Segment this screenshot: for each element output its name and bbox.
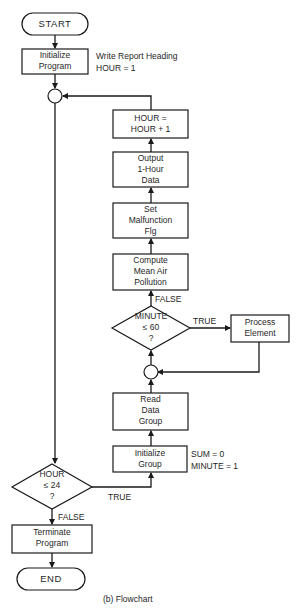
edge-process-element-connector	[158, 342, 259, 372]
compute-mean-line-2: Mean Air	[113, 266, 188, 277]
init-group-label: Initialize Group	[113, 448, 187, 470]
terminate-line-2: Program	[12, 538, 92, 549]
edge-hour-increment-connector	[63, 96, 151, 110]
init-group-note: SUM = 0 MINUTE = 1	[191, 448, 238, 472]
minute-decision-label: MINUTE ≤ 60 ?	[116, 311, 186, 344]
hour-decision-line-3: ?	[17, 491, 87, 502]
terminate-label: Terminate Program	[12, 527, 92, 549]
output-data-line-3: Data	[113, 175, 188, 186]
read-data-line-1: Read	[113, 394, 188, 405]
init-program-label: Initialize Program	[22, 50, 88, 72]
output-data-label: Output 1-Hour Data	[113, 153, 188, 186]
set-malfunction-line-1: Set	[113, 204, 188, 215]
compute-mean-label: Compute Mean Air Pollution	[113, 255, 188, 288]
hour-increment-label: HOUR = HOUR + 1	[113, 113, 188, 135]
flowchart-canvas	[0, 0, 302, 614]
set-malfunction-line-3: Flg	[113, 226, 188, 237]
compute-mean-line-3: Pollution	[113, 277, 188, 288]
hour-decision-line-2: ≤ 24	[17, 480, 87, 491]
process-element-line-1: Process	[231, 317, 289, 328]
figure-caption: (b) Flowchart	[103, 593, 153, 605]
init-group-note-line-2: MINUTE = 1	[191, 460, 238, 472]
hour-decision-label: HOUR ≤ 24 ?	[17, 469, 87, 502]
read-data-line-2: Data	[113, 405, 188, 416]
set-malfunction-line-2: Malfunction	[113, 215, 188, 226]
process-element-line-2: Element	[231, 328, 289, 339]
start-label: START	[22, 18, 88, 29]
edge-hour-true	[92, 473, 151, 487]
init-group-note-line-1: SUM = 0	[191, 448, 238, 460]
output-data-line-2: 1-Hour	[113, 164, 188, 175]
minute-decision-line-2: ≤ 60	[116, 322, 186, 333]
hour-increment-line-1: HOUR =	[113, 113, 188, 124]
terminate-line-1: Terminate	[12, 527, 92, 538]
connector-inner	[144, 365, 158, 379]
hour-decision-line-1: HOUR	[17, 469, 87, 480]
hour-increment-line-2: HOUR + 1	[113, 124, 188, 135]
hour-false-label: FALSE	[58, 511, 84, 523]
init-program-line-1: Initialize	[22, 50, 88, 61]
init-program-note-line-1: Write Report Heading	[96, 50, 178, 62]
init-program-line-2: Program	[22, 61, 88, 72]
minute-decision-line-3: ?	[116, 333, 186, 344]
minute-decision-line-1: MINUTE	[116, 311, 186, 322]
read-data-label: Read Data Group	[113, 394, 188, 427]
init-program-note: Write Report Heading HOUR = 1	[96, 50, 178, 74]
process-element-label: Process Element	[231, 317, 289, 339]
connector-outer	[48, 89, 62, 103]
init-program-note-line-2: HOUR = 1	[96, 62, 178, 74]
init-group-line-2: Group	[113, 459, 187, 470]
output-data-line-1: Output	[113, 153, 188, 164]
minute-false-label: FALSE	[155, 293, 181, 305]
minute-true-label: TRUE	[193, 315, 216, 327]
compute-mean-line-1: Compute	[113, 255, 188, 266]
set-malfunction-label: Set Malfunction Flg	[113, 204, 188, 237]
init-group-line-1: Initialize	[113, 448, 187, 459]
read-data-line-3: Group	[113, 416, 188, 427]
end-label: END	[17, 573, 85, 584]
hour-true-label: TRUE	[108, 491, 131, 503]
